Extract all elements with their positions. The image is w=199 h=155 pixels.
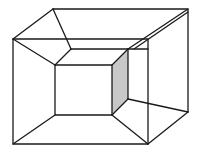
nested-box-diagram [0, 0, 199, 155]
diag-bottom-right [112, 115, 148, 144]
diagram-svg [0, 0, 199, 155]
diag-top-left [13, 39, 55, 65]
edge-bottom-right-connector [148, 112, 188, 144]
diag-bottom-left [13, 115, 55, 144]
edge-top-right-connector-a [128, 9, 188, 49]
edge-top-left-connector [13, 9, 53, 39]
edge-inner-to-back-bottom [128, 99, 188, 112]
edge-inner-top-left [55, 49, 71, 65]
edge-top-right-connector-b [134, 12, 188, 49]
edge-back-top-to-inner [53, 9, 71, 49]
inner-front-square [55, 65, 112, 115]
shaded-inner-face [112, 49, 128, 115]
